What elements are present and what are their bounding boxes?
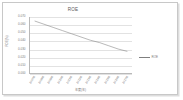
legend-label-roe: ROE (152, 56, 159, 59)
x-axis-tick-label: 2007年 (29, 75, 37, 85)
x-axis-tick-label: 2011年 (66, 75, 74, 85)
chart-legend: ROE (139, 56, 158, 59)
x-axis-tick-label: 2015年 (104, 75, 112, 85)
x-axis-title: 年度(年) (29, 88, 132, 92)
x-axis-tick-label: 2012年 (75, 75, 83, 85)
y-axis-tick-label: 0.030 (18, 48, 26, 51)
x-axis-tick-label: 2016年 (113, 75, 121, 85)
x-axis-tick-label: 2009年 (47, 75, 55, 85)
y-axis-tick-label: 0.040 (18, 40, 26, 43)
x-axis-tick-label: 2008年 (38, 75, 46, 85)
chart-title: ROE (3, 7, 143, 13)
y-axis-tick-labels: 0.0700.0600.0500.0400.0300.0200.0100.000 (3, 17, 27, 74)
x-axis-tick-label: 2013年 (85, 75, 93, 85)
x-axis-tick-label: 2010年 (57, 75, 65, 85)
plot-area (29, 17, 132, 74)
legend-line-swatch (139, 57, 150, 58)
y-axis-tick-label: 0.070 (18, 15, 26, 18)
chart-container: ROE ROE(%) 0.0700.0600.0500.0400.0300.02… (2, 2, 178, 95)
y-axis-tick-label: 0.060 (18, 23, 26, 26)
y-axis-tick-label: 0.020 (18, 56, 26, 59)
y-axis-tick-label: 0.050 (18, 32, 26, 35)
y-axis-tick-label: 0.000 (18, 72, 26, 75)
y-axis-tick-label: 0.010 (18, 64, 26, 67)
x-axis-tick-label: 2017年 (122, 75, 130, 85)
x-axis-tick-labels: 2007年2008年2009年2010年2011年2012年2013年2014年… (29, 75, 132, 89)
x-axis-tick-label: 2014年 (94, 75, 102, 85)
series-line-roe (30, 17, 132, 73)
